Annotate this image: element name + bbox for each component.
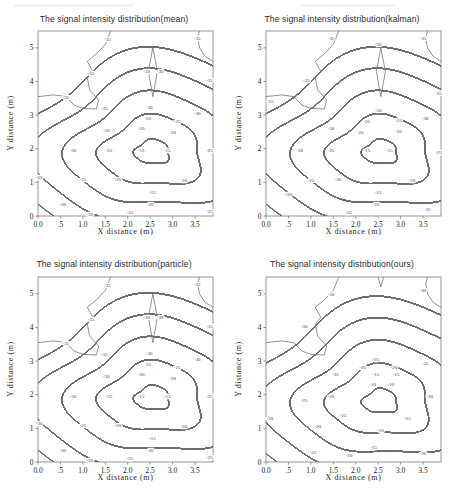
y-tick-label: 5 xyxy=(30,289,34,298)
panel-kalman: The signal intensity distribution(kalman… xyxy=(228,0,456,252)
contour-level-label: -35 xyxy=(206,324,213,329)
y-tick-label: 1 xyxy=(258,178,262,187)
y-tick-label: 0 xyxy=(30,212,34,221)
contour-level-label: -30 xyxy=(328,292,335,297)
contour-level-label: -35 xyxy=(267,99,274,104)
contour-level-label: -30 xyxy=(59,448,66,453)
y-tick-label: 5 xyxy=(258,43,262,52)
contour-level-label: -25 xyxy=(106,148,113,153)
x-tick-label: 3.5 xyxy=(418,220,428,229)
contour-level-label: -10 xyxy=(387,382,394,387)
contour-plot-particle: 0.0.51.01.52.02.53.03.5012345-35-35-35-3… xyxy=(0,252,228,503)
contour-level-label: -25 xyxy=(310,450,317,455)
contour-level-label: -15 xyxy=(164,394,171,399)
contour-level-label: -20 xyxy=(391,365,398,370)
contour-level-label: -25 xyxy=(206,394,213,399)
y-tick-label: 4 xyxy=(30,323,34,332)
y-axis-label: Y distance (m) xyxy=(6,341,15,397)
x-tick-label: 1.0 xyxy=(306,220,316,229)
panel-particle: The signal intensity distribution(partic… xyxy=(0,252,228,503)
contour-level-label: -30 xyxy=(143,315,150,320)
x-tick-label: 3.0 xyxy=(168,466,178,475)
panel-ours: The signal intensity distribution(ours) … xyxy=(228,252,456,503)
contour-level-label: -35 xyxy=(328,36,335,41)
contour-level-label: -30 xyxy=(194,357,201,362)
contour-level-label: -25 xyxy=(174,365,181,370)
x-tick-label: 3.0 xyxy=(396,220,406,229)
y-tick-label: 4 xyxy=(258,77,262,86)
contour-level-label: -15 xyxy=(340,413,347,418)
y-tick-label: 3 xyxy=(30,357,34,366)
x-tick-label: 1.0 xyxy=(78,466,88,475)
contour-level-label: -25 xyxy=(145,362,152,367)
y-tick-label: 5 xyxy=(258,289,262,298)
y-tick-label: 3 xyxy=(258,357,262,366)
y-tick-label: 1 xyxy=(258,424,262,433)
y-tick-label: 0 xyxy=(30,458,34,467)
contour-level-label: -15 xyxy=(138,148,145,153)
x-tick-label: 0.0 xyxy=(261,220,271,229)
contour-level-label: -20 xyxy=(147,448,154,453)
contour-level-label: -35 xyxy=(63,341,70,346)
contour-level-label: -35 xyxy=(88,71,95,76)
contour-level-label: -30 xyxy=(266,416,273,421)
contour-level-label: -20 xyxy=(314,424,321,429)
y-tick-label: 2 xyxy=(258,144,262,153)
x-tick-label: 3.0 xyxy=(396,466,406,475)
y-tick-label: 5 xyxy=(30,43,34,52)
contour-level-label: -20 xyxy=(115,177,122,182)
contour-level-label: -35 xyxy=(420,36,427,41)
contour-level-label: -15 xyxy=(149,190,156,195)
contour-level-label: -35 xyxy=(194,282,201,287)
contour-level-label: -15 xyxy=(164,148,171,153)
contour-level-label: -25 xyxy=(308,178,315,183)
contour-level-label: -30 xyxy=(86,458,93,463)
contour-level-label: -20 xyxy=(169,376,176,381)
contour-level-label: -20 xyxy=(357,130,364,135)
contour-level-label: -25 xyxy=(346,210,353,215)
contour-level-label: -25 xyxy=(80,177,87,182)
contour-level-label: -30 xyxy=(328,126,335,131)
contour-level-label: -25 xyxy=(127,210,134,215)
x-tick-label: 3.0 xyxy=(168,220,178,229)
contour-level-label: -30 xyxy=(143,69,150,74)
contour-level-label: -20 xyxy=(147,202,154,207)
contour-level-label: -25 xyxy=(435,150,442,155)
x-axis-label: X distance (m) xyxy=(326,473,382,482)
y-tick-label: 4 xyxy=(30,77,34,86)
scan-artifact-left xyxy=(14,4,134,7)
contour-level-label: -15 xyxy=(149,436,156,441)
contour-level-label: -30 xyxy=(146,105,153,110)
contour-level-label: -30 xyxy=(59,202,66,207)
contour-level-label: -30 xyxy=(70,148,77,153)
y-axis-label: Y distance (m) xyxy=(234,95,243,151)
contour-level-label: -35 xyxy=(63,95,70,100)
contour-level-label: -30 xyxy=(36,421,43,426)
x-tick-label: .5 xyxy=(58,466,64,475)
contour-level-label: -25 xyxy=(301,398,308,403)
contour-plot-kalman: 0.0.51.01.52.02.53.03.5012345-35-35-35-3… xyxy=(228,0,456,252)
contour-level-label: -30 xyxy=(422,116,429,121)
y-tick-label: 1 xyxy=(30,178,34,187)
y-axis-label: Y distance (m) xyxy=(6,95,15,151)
x-tick-label: .5 xyxy=(58,220,64,229)
contour-level-label: -25 xyxy=(145,116,152,121)
contour-level-label: -15 xyxy=(370,445,377,450)
contour-level-label: -35 xyxy=(104,37,111,42)
contour-level-label: -30 xyxy=(36,175,43,180)
y-tick-label: 0 xyxy=(258,458,262,467)
contour-level-label: -35 xyxy=(101,352,108,357)
contour-level-label: -35 xyxy=(206,78,213,83)
contour-level-label: -25 xyxy=(127,456,134,461)
contour-level-label: -30 xyxy=(157,315,164,320)
contour-level-label: -20 xyxy=(115,423,122,428)
contour-level-label: -20 xyxy=(181,178,188,183)
contour-level-label: -25 xyxy=(80,423,87,428)
contour-level-label: -25 xyxy=(364,119,371,124)
contour-level-label: -30 xyxy=(285,192,292,197)
contour-level-label: -25 xyxy=(422,361,429,366)
contour-level-label: -15 xyxy=(373,372,380,377)
contour-level-label: -15 xyxy=(375,190,382,195)
y-tick-label: 2 xyxy=(30,390,34,399)
contour-level-label: -20 xyxy=(138,126,145,131)
